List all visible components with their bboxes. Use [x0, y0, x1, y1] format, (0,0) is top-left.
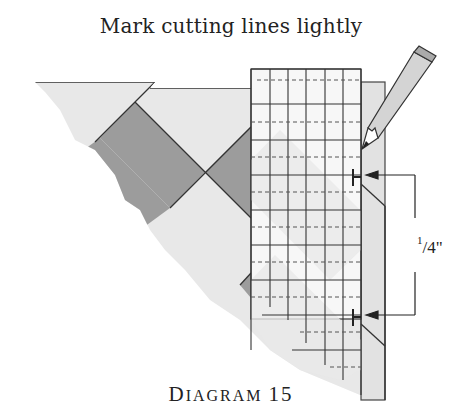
cutting-diagram — [0, 0, 462, 415]
measurement-label: 1/4" — [417, 236, 443, 258]
diagram-caption: DIAGRAM 15 — [0, 382, 462, 407]
caption-word: IAGRAM — [186, 387, 263, 404]
measurement-denominator: /4" — [423, 238, 443, 257]
caption-initial: D — [168, 382, 185, 406]
caption-number: 15 — [269, 382, 294, 406]
measurement-numerator: 1 — [417, 234, 423, 246]
